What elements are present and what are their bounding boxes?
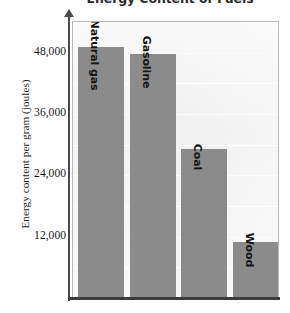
bars-layer: Natural gasGasolineCoalWood: [73, 22, 278, 297]
y-tick-label-24000: 24,000: [14, 167, 66, 180]
chart-title: Energy Content of Fuels: [58, 0, 282, 6]
bar-label: Wood: [243, 233, 256, 267]
y-tick-label-12000: 12,000: [14, 229, 66, 242]
y-axis-line: [68, 14, 70, 301]
bar-label: Gasoline: [140, 36, 153, 89]
y-tick-label-48000: 48,000: [14, 45, 66, 58]
bar-label: Natural gas: [88, 21, 101, 90]
bar-natural-gas[interactable]: Natural gas: [78, 47, 124, 297]
y-axis-arrow-icon: [64, 9, 74, 17]
x-axis-line: [68, 297, 280, 300]
y-tick-label-36000: 36,000: [14, 106, 66, 119]
bar-label: Coal: [191, 144, 204, 170]
plot-area: Natural gasGasolineCoalWood: [72, 21, 279, 298]
energy-content-bar-chart: Energy Content of Fuels Energy content p…: [0, 0, 290, 313]
bar-gasoline[interactable]: Gasoline: [130, 54, 176, 297]
bar-wood[interactable]: Wood: [233, 242, 279, 297]
bar-coal[interactable]: Coal: [181, 149, 227, 297]
